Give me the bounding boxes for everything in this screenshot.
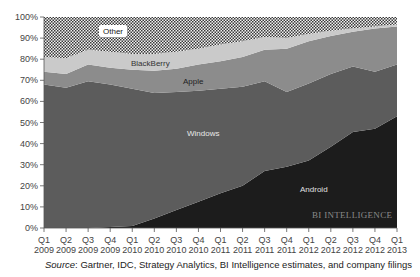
x-tick-label: Q12013	[387, 235, 407, 255]
x-tick-label: Q12009	[34, 235, 54, 255]
x-tick-label: Q42009	[100, 235, 120, 255]
y-tick-label: 20%	[20, 181, 38, 191]
y-tick-label: 10%	[20, 202, 38, 212]
x-tick-label: Q22011	[233, 235, 252, 255]
y-tick-label: 40%	[20, 139, 38, 149]
source-prefix: Source	[45, 259, 75, 270]
svg-text:Other: Other	[103, 27, 123, 36]
windows-label: Windows	[187, 129, 219, 138]
android-label: Android	[300, 185, 328, 194]
y-tick-label: 50%	[20, 118, 38, 128]
x-tick-label: Q32012	[343, 235, 363, 255]
x-tick-label: Q22010	[144, 235, 164, 255]
y-tick-label: 90%	[20, 33, 38, 43]
y-tick-label: 70%	[20, 75, 38, 85]
stacked-area-chart: 0%10%20%30%40%50%60%70%80%90%100% Q12009…	[0, 0, 420, 258]
blackberry-label: BlackBerry	[131, 59, 170, 68]
x-tick-label: Q42011	[277, 235, 296, 255]
source-text: : Gartner, IDC, Strategy Analytics, BI I…	[75, 259, 412, 270]
x-tick-label: Q22012	[321, 235, 341, 255]
y-axis: 0%10%20%30%40%50%60%70%80%90%100%	[15, 12, 44, 233]
x-axis: Q12009Q22009Q32009Q42009Q12010Q22010Q320…	[34, 228, 407, 255]
x-tick-label: Q32010	[166, 235, 186, 255]
x-tick-label: Q32011	[255, 235, 274, 255]
apple-label: Apple	[183, 77, 204, 86]
x-tick-label: Q12011	[211, 235, 230, 255]
other-label: Other	[99, 25, 127, 37]
x-tick-label: Q32009	[78, 235, 98, 255]
y-tick-label: 80%	[20, 54, 38, 64]
x-tick-label: Q42012	[365, 235, 385, 255]
y-tick-label: 60%	[20, 96, 38, 106]
y-tick-label: 100%	[15, 12, 38, 22]
y-tick-label: 30%	[20, 160, 38, 170]
x-tick-label: Q12010	[122, 235, 142, 255]
bi-intelligence-watermark: BI INTELLIGENCE	[312, 210, 392, 220]
x-tick-label: Q42010	[188, 235, 208, 255]
x-tick-label: Q12012	[299, 235, 319, 255]
y-tick-label: 0%	[25, 223, 38, 233]
plot-areas	[44, 17, 397, 228]
x-tick-label: Q22009	[56, 235, 76, 255]
source-note: Source: Gartner, IDC, Strategy Analytics…	[45, 259, 412, 270]
